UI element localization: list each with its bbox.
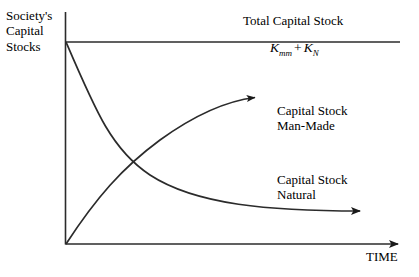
total-capital-stock-formula: Kmm+KN [270, 40, 319, 58]
capital-stocks-diagram: Society's Capital Stocks Total Capital S… [0, 0, 419, 277]
y-axis-title: Society's Capital Stocks [6, 8, 52, 54]
formula-operator: + [292, 40, 304, 55]
formula-term2-base: K [304, 40, 313, 55]
curve-label-man-made: Capital Stock Man-Made [277, 103, 347, 134]
curve-label-natural: Capital Stock Natural [277, 172, 347, 203]
total-capital-stock-label: Total Capital Stock [243, 13, 343, 28]
formula-term2-subscript: N [313, 48, 319, 58]
x-axis-title: TIME [366, 249, 398, 264]
curve-capital-stock-man-made [66, 98, 255, 245]
formula-term1-base: K [270, 40, 279, 55]
formula-term1-subscript: mm [279, 48, 292, 58]
diagram-canvas [0, 0, 419, 277]
